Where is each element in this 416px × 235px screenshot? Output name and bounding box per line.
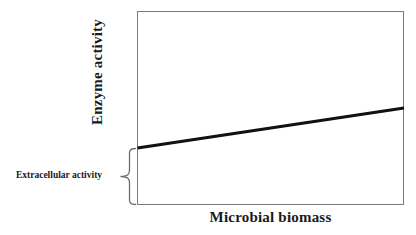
extracellular-brace-icon — [121, 149, 136, 205]
y-axis-label: Enzyme activity — [88, 0, 106, 152]
extracellular-activity-label: Extracellular activity — [6, 169, 112, 181]
plot-area-frame — [137, 11, 404, 205]
x-axis-label: Microbial biomass — [137, 209, 404, 226]
chart-figure: Enzyme activity Microbial biomass Extrac… — [0, 0, 416, 235]
